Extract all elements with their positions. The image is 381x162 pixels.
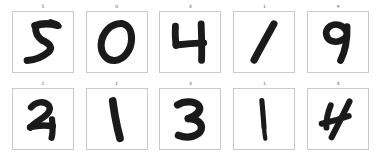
digit-glyph-5	[13, 12, 73, 72]
digit-panel-7[interactable]: 3	[154, 81, 228, 158]
digit-glyph-9	[308, 12, 368, 72]
panel-title-6: 1	[115, 81, 118, 88]
digit-grid-figure: 5 0 4	[0, 0, 381, 162]
digit-panel-2[interactable]: 4	[154, 4, 228, 81]
digit-image-5	[12, 11, 74, 73]
panel-title-0: 5	[42, 4, 45, 11]
digit-glyph-1	[234, 12, 294, 72]
digit-panel-0[interactable]: 5	[6, 4, 80, 81]
digit-glyph-4	[308, 89, 368, 149]
digit-panel-6[interactable]: 1	[80, 81, 154, 158]
digit-image-3	[159, 88, 221, 150]
digit-image-1-c	[233, 88, 295, 150]
panel-title-7: 3	[189, 81, 192, 88]
digit-image-4	[159, 11, 221, 73]
digit-glyph-1	[234, 89, 294, 149]
digit-image-2	[12, 88, 74, 150]
digit-panel-8[interactable]: 1	[227, 81, 301, 158]
digit-image-1-b	[86, 88, 148, 150]
panel-title-2: 4	[189, 4, 192, 11]
digit-glyph-3	[160, 89, 220, 149]
digit-glyph-4	[160, 12, 220, 72]
panel-title-4: 9	[337, 4, 340, 11]
panel-title-8: 1	[263, 81, 266, 88]
digit-image-1-a	[233, 11, 295, 73]
digit-panel-5[interactable]: 2	[6, 81, 80, 158]
panel-title-9: 4	[337, 81, 340, 88]
digit-glyph-1	[87, 89, 147, 149]
digit-glyph-2	[13, 89, 73, 149]
digit-image-0	[86, 11, 148, 73]
digit-panel-9[interactable]: 4	[301, 81, 375, 158]
digit-grid: 5 0 4	[0, 0, 381, 162]
digit-image-4-b	[307, 88, 369, 150]
digit-glyph-0	[87, 12, 147, 72]
panel-title-1: 0	[115, 4, 118, 11]
digit-panel-1[interactable]: 0	[80, 4, 154, 81]
digit-image-9	[307, 11, 369, 73]
panel-title-5: 2	[42, 81, 45, 88]
panel-title-3: 1	[263, 4, 266, 11]
digit-panel-4[interactable]: 9	[301, 4, 375, 81]
digit-panel-3[interactable]: 1	[227, 4, 301, 81]
